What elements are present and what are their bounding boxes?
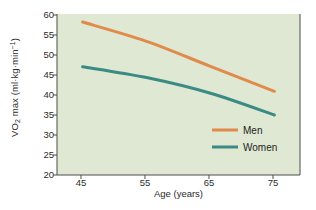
x-axis-ticks [81, 175, 273, 179]
legend-label-women: Women [243, 143, 277, 153]
chart-figure: VO2 max (ml·kg·min−1) 20 25 30 35 40 45 … [0, 0, 316, 210]
legend-label-men: Men [243, 126, 262, 136]
y-axis-ticks [53, 15, 57, 175]
plot-svg [0, 0, 316, 210]
